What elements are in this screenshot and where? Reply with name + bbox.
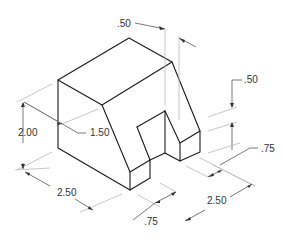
dim-top-setback: 1.50 — [90, 127, 110, 138]
dim-right-step-height: .50 — [244, 74, 258, 85]
dimension-lines — [15, 23, 258, 221]
dim-left-width: 2.50 — [57, 187, 77, 198]
dim-right-depth: 2.50 — [207, 195, 227, 206]
dim-right-leg-depth: .75 — [261, 143, 275, 154]
top-face — [58, 38, 172, 105]
dim-overall-height: 2.00 — [18, 127, 38, 138]
dim-top-notch-width: .50 — [117, 18, 131, 29]
right-leg — [180, 131, 200, 161]
isometric-part-drawing: .50 .50 .75 2.00 1.50 2.50 .75 2.50 — [0, 0, 285, 239]
dim-slot-width: .75 — [144, 216, 158, 227]
left-leg — [130, 160, 150, 190]
dimension-labels: .50 .50 .75 2.00 1.50 2.50 .75 2.50 — [18, 18, 275, 227]
